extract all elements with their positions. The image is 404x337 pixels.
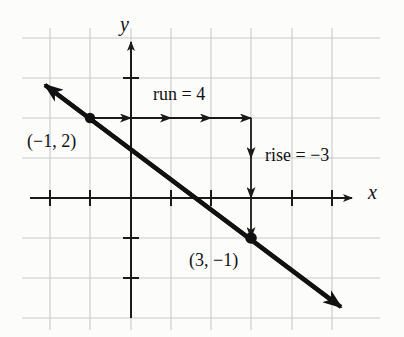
graph-canvas [0, 0, 404, 337]
y-axis-label: y [120, 14, 129, 34]
run-annotation-label: run = 4 [153, 85, 205, 103]
point-2-label: (3, −1) [189, 251, 238, 269]
y-axis [123, 42, 139, 318]
grid-lines [22, 28, 380, 330]
slope-graph-figure: y x run = 4 rise = −3 (−1, 2) (3, −1) [0, 0, 404, 337]
x-axis-label: x [368, 182, 377, 202]
data-point-2 [245, 232, 257, 244]
data-point-1 [85, 113, 95, 123]
point-1-label: (−1, 2) [27, 132, 76, 150]
rise-annotation-label: rise = −3 [265, 146, 329, 164]
